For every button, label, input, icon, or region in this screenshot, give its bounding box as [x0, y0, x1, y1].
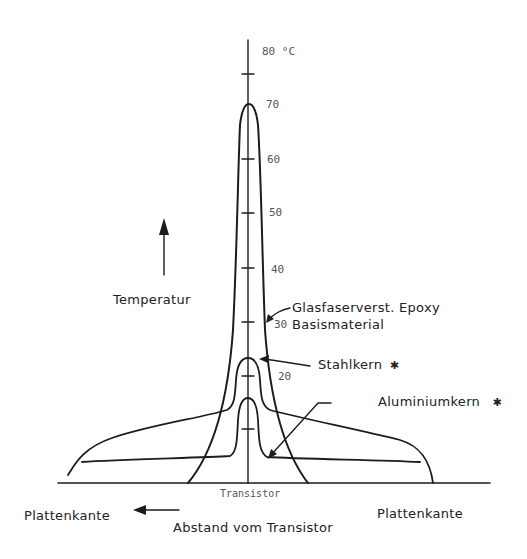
stahlkern-label: Stahlkern ✱: [318, 357, 399, 372]
x-right-label-plate-edge: Plattenkante: [377, 506, 463, 521]
y-axis-title: Temperatur: [113, 292, 191, 307]
temperature-arrowhead-icon: [159, 218, 169, 235]
ytick-label-70: 70: [266, 98, 279, 111]
epoxy-label-line1: Glasfaserverst. Epoxy: [292, 300, 440, 315]
ytick-label-40: 40: [271, 263, 284, 276]
aluminiumkern-label: Aluminiumkern ✱: [378, 394, 502, 409]
epoxy-leader-line: [270, 308, 290, 318]
x-left-label-plate-edge: Plattenkante: [24, 508, 110, 523]
ytick-label-30: 30: [274, 318, 287, 331]
curve-stahlkern: [68, 358, 433, 483]
distance-arrowhead-icon: [133, 505, 146, 515]
asterisk-icon: ✱: [493, 396, 503, 409]
ytick-label-50: 50: [269, 206, 282, 219]
ytick-label-60: 60: [267, 153, 280, 166]
x-axis-title: Abstand vom Transistor: [173, 520, 333, 535]
stahlkern-label-text: Stahlkern: [318, 357, 382, 372]
ytick-label-20: 20: [278, 370, 291, 383]
aluminiumkern-label-text: Aluminiumkern: [378, 394, 480, 409]
epoxy-label-line2: Basismaterial: [292, 317, 384, 332]
temperature-profile-chart: [0, 0, 527, 559]
x-center-label-transistor: Transistor: [220, 488, 280, 499]
curve-aluminiumkern: [82, 398, 420, 462]
asterisk-icon: ✱: [390, 359, 400, 372]
aluminium-leader-line: [271, 403, 331, 455]
stahlkern-arrowhead-icon: [259, 355, 269, 363]
ytick-label-80: 80 °C: [262, 45, 295, 58]
